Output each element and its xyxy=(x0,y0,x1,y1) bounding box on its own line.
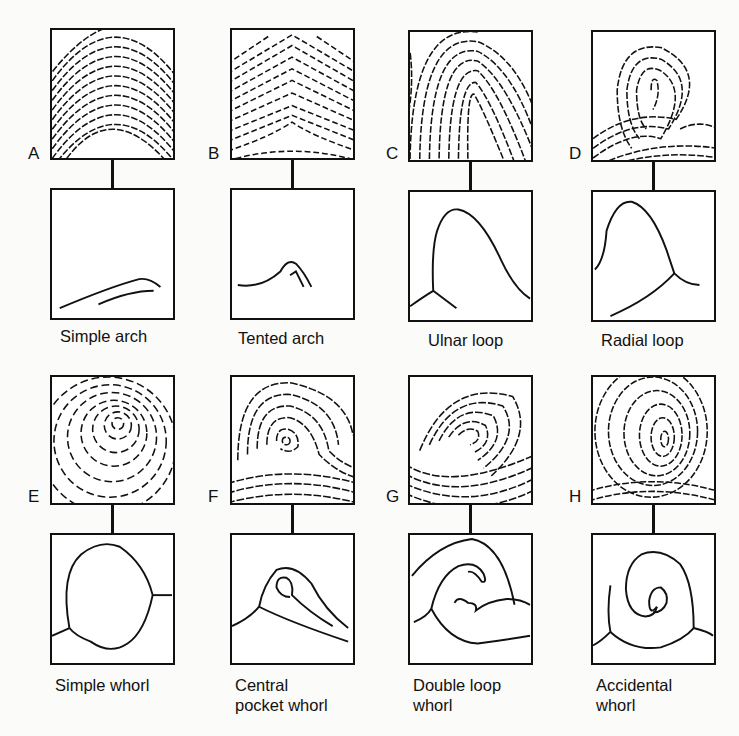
panel-letter: F xyxy=(208,487,218,507)
ridge-schematic-icon xyxy=(408,190,533,322)
caption: Central pocket whorl xyxy=(235,675,375,715)
caption: Double loop whorl xyxy=(413,675,553,715)
panel-letter: B xyxy=(208,144,219,164)
connector-line xyxy=(469,505,472,533)
fingerprint-texture-icon xyxy=(408,30,533,162)
fingerprint-texture-icon xyxy=(591,375,716,505)
panel-letter: H xyxy=(569,487,581,507)
ridge-schematic-icon xyxy=(591,533,716,665)
caption: Simple whorl xyxy=(55,675,195,695)
connector-line xyxy=(291,505,294,533)
ridge-schematic-icon xyxy=(408,533,533,665)
fingerprint-texture-icon xyxy=(230,28,355,160)
ridge-schematic-icon xyxy=(230,188,355,320)
panel-letter: A xyxy=(28,144,39,164)
fingerprint-texture-icon xyxy=(50,375,175,505)
connector-line xyxy=(469,162,472,190)
panel-letter: C xyxy=(386,144,398,164)
fingerprint-texture-icon xyxy=(50,28,175,160)
panel-letter: D xyxy=(569,144,581,164)
connector-line xyxy=(652,162,655,190)
fingerprint-texture-icon xyxy=(230,375,355,505)
panel-letter: E xyxy=(28,487,39,507)
ridge-schematic-icon xyxy=(230,533,355,665)
caption: Accidental whorl xyxy=(596,675,736,715)
connector-line xyxy=(291,160,294,188)
ridge-schematic-icon xyxy=(50,533,175,665)
connector-line xyxy=(652,505,655,533)
connector-line xyxy=(111,505,114,533)
ridge-schematic-icon xyxy=(591,190,716,322)
caption: Tented arch xyxy=(238,328,378,348)
caption: Radial loop xyxy=(601,330,739,350)
connector-line xyxy=(111,160,114,188)
fingerprint-texture-icon xyxy=(408,375,533,505)
panel-letter: G xyxy=(386,487,399,507)
ridge-schematic-icon xyxy=(50,188,175,320)
caption: Ulnar loop xyxy=(428,330,568,350)
fingerprint-texture-icon xyxy=(591,30,716,162)
caption: Simple arch xyxy=(60,326,200,346)
